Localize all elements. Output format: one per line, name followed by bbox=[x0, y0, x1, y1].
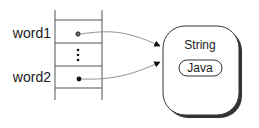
string-object: String Java bbox=[163, 26, 242, 118]
object-type-label: String bbox=[184, 38, 215, 52]
variable-label-word2: word2 bbox=[12, 69, 51, 85]
ellipsis-icon bbox=[77, 49, 80, 62]
reference-dot-word1 bbox=[76, 32, 80, 36]
variable-label-word1: word1 bbox=[12, 25, 51, 41]
reference-dot-word2 bbox=[77, 77, 82, 82]
pointer-arrow-word2 bbox=[81, 62, 160, 79]
object-value-label: Java bbox=[187, 61, 213, 75]
pointer-arrow-word1 bbox=[80, 32, 160, 46]
reference-diagram: word1 word2 String Java bbox=[0, 0, 259, 128]
